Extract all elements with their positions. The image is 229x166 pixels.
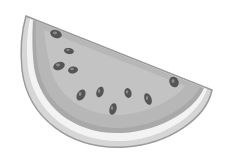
watermelon-slice-icon xyxy=(0,0,229,166)
seed-highlight xyxy=(146,96,148,100)
seed-highlight xyxy=(56,64,60,67)
seed-highlight xyxy=(98,89,100,93)
seed-highlight xyxy=(66,49,70,51)
seed-highlight xyxy=(79,92,82,96)
seed-highlight xyxy=(126,90,128,94)
seed-highlight xyxy=(111,106,113,110)
seed-highlight xyxy=(70,68,74,70)
seed-highlight xyxy=(53,32,57,35)
watermelon-illustration xyxy=(0,0,229,166)
seed-highlight xyxy=(171,79,174,83)
